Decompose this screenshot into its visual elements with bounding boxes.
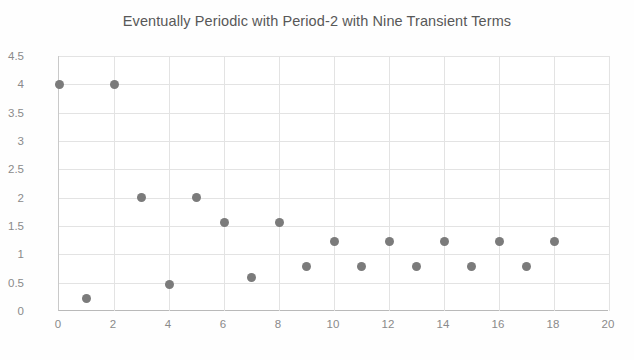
y-tick-label: 4 (0, 78, 24, 90)
x-tick-label: 0 (38, 318, 78, 330)
data-point (192, 193, 201, 202)
data-point (302, 262, 311, 271)
x-tick-label: 8 (258, 318, 298, 330)
x-tick-label: 16 (478, 318, 518, 330)
gridline-vertical (334, 56, 335, 311)
gridline-vertical (609, 56, 610, 311)
data-point (522, 262, 531, 271)
y-tick-label: 1 (0, 248, 24, 260)
data-point (550, 237, 559, 246)
data-point (82, 294, 91, 303)
data-point (357, 262, 366, 271)
data-point (165, 280, 174, 289)
gridline-vertical (499, 56, 500, 311)
data-point (467, 262, 476, 271)
x-tick-label: 4 (148, 318, 188, 330)
x-tick-label: 12 (368, 318, 408, 330)
gridline-vertical (389, 56, 390, 311)
gridline-vertical (554, 56, 555, 311)
data-point (440, 237, 449, 246)
data-point (220, 218, 229, 227)
gridline-vertical (114, 56, 115, 311)
y-tick-label: 2.5 (0, 163, 24, 175)
data-point (385, 237, 394, 246)
x-tick-label: 14 (423, 318, 463, 330)
y-tick-label: 4.5 (0, 50, 24, 62)
data-point (412, 262, 421, 271)
y-tick-label: 1.5 (0, 220, 24, 232)
data-point (247, 273, 256, 282)
gridline-vertical (279, 56, 280, 311)
data-point (330, 237, 339, 246)
chart-title: Eventually Periodic with Period-2 with N… (0, 13, 634, 29)
x-tick-label: 6 (203, 318, 243, 330)
gridline-vertical (224, 56, 225, 311)
x-tick-label: 10 (313, 318, 353, 330)
gridline-vertical (169, 56, 170, 311)
x-tick-label: 20 (588, 318, 628, 330)
data-point (137, 193, 146, 202)
y-tick-label: 3.5 (0, 107, 24, 119)
x-tick-label: 2 (93, 318, 133, 330)
data-point (110, 80, 119, 89)
data-point (55, 80, 64, 89)
y-tick-label: 0.5 (0, 277, 24, 289)
y-tick-label: 3 (0, 135, 24, 147)
data-point (495, 237, 504, 246)
data-point (275, 218, 284, 227)
gridline-vertical (444, 56, 445, 311)
x-tick-label: 18 (533, 318, 573, 330)
plot-area (58, 56, 608, 311)
y-tick-label: 0 (0, 305, 24, 317)
chart-figure: Eventually Periodic with Period-2 with N… (0, 0, 634, 360)
y-tick-label: 2 (0, 192, 24, 204)
